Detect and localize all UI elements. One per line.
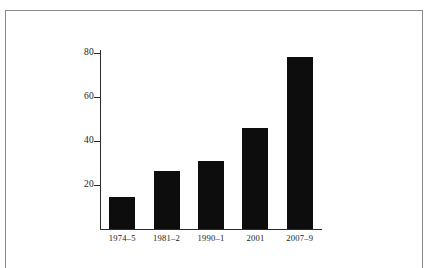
y-tick-label: 20 [68,180,94,190]
y-tick-label: 60 [68,92,94,102]
bar [242,128,268,229]
x-axis-line [100,229,322,230]
y-tick-mark [94,185,100,186]
bar [154,171,180,229]
y-tick-label: 80 [68,48,94,58]
bar [287,57,313,229]
y-tick-mark [94,141,100,142]
y-axis-line [100,50,101,230]
y-tick-mark [94,97,100,98]
bar [198,161,224,229]
x-tick-label: 2007–9 [270,234,330,243]
bar [109,197,135,229]
y-tick-mark [94,53,100,54]
y-tick-label: 40 [68,136,94,146]
